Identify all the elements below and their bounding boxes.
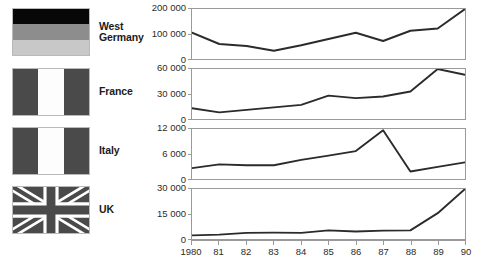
x-tick-label: 88 <box>406 247 417 257</box>
chart-italy: 12 000 6 000 0 <box>178 128 480 180</box>
y-tick-label: 12 000 <box>66 123 186 133</box>
x-axis: 198081828384858687888990 <box>178 240 480 263</box>
flag-band-white <box>38 128 63 174</box>
x-tick-label: 83 <box>268 247 279 257</box>
y-tick-label: 0 <box>66 235 186 245</box>
y-tick-label: 30 000 <box>66 89 186 99</box>
chart-france: 60 000 30 000 0 <box>178 68 480 120</box>
chart-uk: 30 000 15 000 0 <box>178 188 480 240</box>
x-tick-label: 89 <box>433 247 444 257</box>
plot-area-west-germany <box>191 8 466 60</box>
x-tick-label: 85 <box>323 247 334 257</box>
y-tick-label: 6 000 <box>66 149 186 159</box>
plot-area-italy <box>191 128 466 180</box>
y-tick-label: 30 000 <box>66 183 186 193</box>
figure-root: West Germany France Italy <box>0 0 480 263</box>
x-tick-label: 90 <box>461 247 472 257</box>
series-west-germany <box>192 9 465 59</box>
x-tick-label: 84 <box>296 247 307 257</box>
flag-band-gold <box>13 40 89 55</box>
flag-band-green <box>13 128 38 174</box>
y-tick-label: 200 000 <box>66 3 186 13</box>
flag-band-blue <box>13 69 38 115</box>
y-tick-label: 100 000 <box>66 29 186 39</box>
chart-west-germany: 200 000 100 000 0 <box>178 8 480 60</box>
series-uk <box>192 189 465 239</box>
plot-area-uk <box>191 188 466 240</box>
x-tick-label: 87 <box>378 247 389 257</box>
series-italy <box>192 129 465 179</box>
y-tick-label: 60 000 <box>66 63 186 73</box>
plot-area-france <box>191 68 466 120</box>
x-tick-label: 86 <box>351 247 362 257</box>
x-tick-label: 82 <box>241 247 252 257</box>
chart-stack: 200 000 100 000 0 60 000 30 000 0 <box>178 0 480 263</box>
series-france <box>192 69 465 119</box>
x-tick-label: 1980 <box>180 247 201 257</box>
flag-band-white <box>38 69 63 115</box>
y-tick-label: 15 000 <box>66 209 186 219</box>
x-tick-label: 81 <box>213 247 224 257</box>
